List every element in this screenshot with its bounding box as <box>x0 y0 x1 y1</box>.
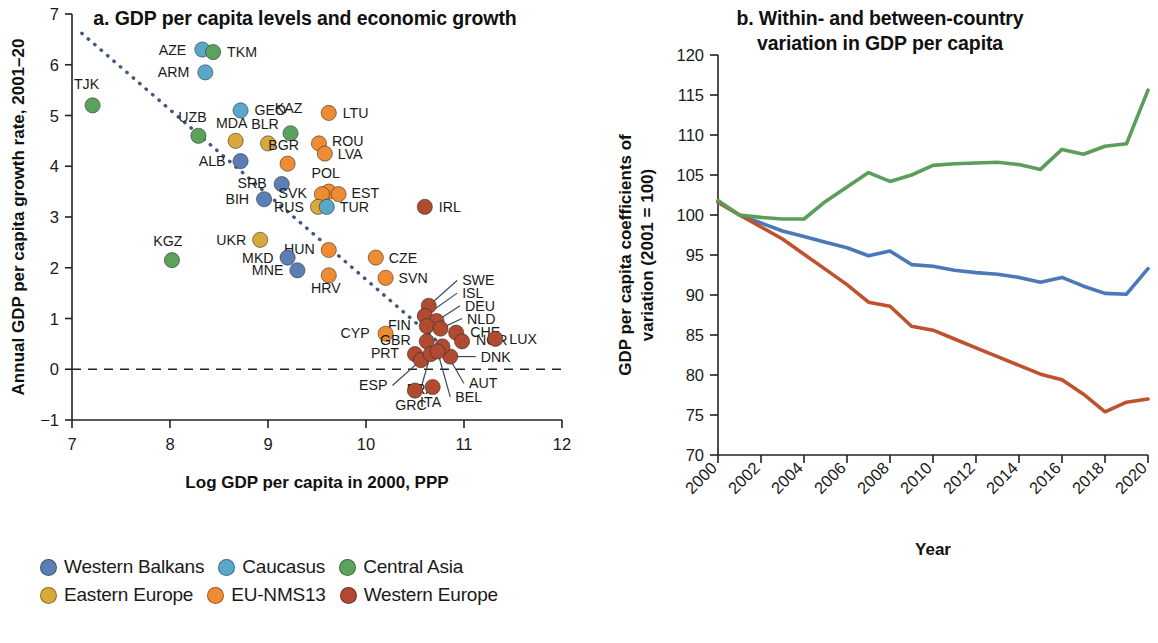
y-tick-label: 85 <box>686 326 704 344</box>
legend-row-1: Western Balkans Caucasus Central Asia <box>40 556 580 578</box>
scatter-dot[interactable] <box>319 199 334 214</box>
scatter-point-label: KGZ <box>153 233 182 249</box>
scatter-point-label: BGR <box>268 137 299 153</box>
x-tick-label: 2020 <box>1111 458 1150 497</box>
x-tick-label: 2012 <box>939 458 978 497</box>
y-tick-label: 100 <box>676 206 704 224</box>
scatter-point-ukr[interactable]: UKR <box>216 232 268 248</box>
scatter-dot[interactable] <box>317 146 332 161</box>
legend-swatch-icon <box>339 559 356 576</box>
scatter-point-label: SRB <box>238 175 267 191</box>
scatter-dot[interactable] <box>198 65 213 80</box>
scatter-point-label: TUR <box>340 199 369 215</box>
x-tick-label: 2006 <box>810 458 849 497</box>
y-tick-label: 80 <box>686 366 704 384</box>
scatter-point-label: CZE <box>389 250 417 266</box>
x-tick-label: 7 <box>67 435 76 453</box>
scatter-dot[interactable] <box>206 44 221 59</box>
scatter-point-lva[interactable]: LVA <box>317 146 363 162</box>
x-tick-label: 2000 <box>681 458 720 497</box>
scatter-point-kaz[interactable]: KAZ <box>275 100 303 141</box>
legend-item-eu-nms13: EU-NMS13 <box>207 584 325 606</box>
scatter-dot[interactable] <box>321 242 336 257</box>
scatter-point-label: HRV <box>311 280 341 296</box>
scatter-point-tur[interactable]: TUR <box>319 199 369 215</box>
scatter-point-cze[interactable]: CZE <box>368 250 417 266</box>
scatter-point-label: SVN <box>399 270 428 286</box>
x-tick-label: 2010 <box>896 458 935 497</box>
scatter-dot[interactable] <box>228 133 243 148</box>
scatter-point-arm[interactable]: ARM <box>158 64 213 80</box>
scatter-dot[interactable] <box>368 250 383 265</box>
scatter-point-alb[interactable]: ALB <box>199 153 248 169</box>
x-tick-label: 2002 <box>724 458 763 497</box>
scatter-point-mda[interactable]: MDA <box>216 115 248 149</box>
scatter-dot[interactable] <box>191 128 206 143</box>
legend-item-caucasus: Caucasus <box>218 556 325 578</box>
scatter-point-label: UKR <box>216 232 246 248</box>
legend-label: EU-NMS13 <box>231 584 325 606</box>
panel-b-lines: b. Within- and between-country variation… <box>600 0 1158 643</box>
y-axis-title-line2: variation (2001 = 100) <box>638 169 657 341</box>
scatter-dot[interactable] <box>425 379 440 394</box>
scatter-point-bgr[interactable]: BGR <box>268 137 299 172</box>
scatter-dot[interactable] <box>321 105 336 120</box>
scatter-point-irl[interactable]: IRL <box>417 199 461 215</box>
scatter-dot[interactable] <box>454 334 469 349</box>
scatter-point-label: CYP <box>340 325 369 341</box>
scatter-dot[interactable] <box>417 199 432 214</box>
scatter-dot[interactable] <box>378 270 393 285</box>
x-tick-label: 2016 <box>1025 458 1064 497</box>
y-axis-title: Annual GDP per capita growth rate, 2001–… <box>9 39 28 396</box>
scatter-dot[interactable] <box>280 156 295 171</box>
legend-row-2: Eastern Europe EU-NMS13 Western Europe <box>40 584 580 606</box>
y-tick-label: 5 <box>50 107 59 125</box>
legend-label: Western Europe <box>364 584 498 606</box>
scatter-point-aze[interactable]: AZE <box>159 42 210 58</box>
scatter-point-fin[interactable]: FIN <box>388 317 434 334</box>
y-tick-label: 90 <box>686 286 704 304</box>
scatter-dot[interactable] <box>430 344 445 359</box>
scatter-dot[interactable] <box>433 321 448 336</box>
scatter-dot[interactable] <box>256 192 271 207</box>
scatter-point-label: LTU <box>343 105 369 121</box>
scatter-point-label: ARM <box>158 64 190 80</box>
scatter-point-label: KAZ <box>275 100 303 116</box>
scatter-point-label: MDA <box>216 115 248 131</box>
y-tick-label: 1 <box>50 310 59 328</box>
legend-label: Central Asia <box>363 556 463 578</box>
scatter-point-ltu[interactable]: LTU <box>321 105 368 121</box>
scatter-dot[interactable] <box>85 98 100 113</box>
scatter-point-dnk[interactable]: DNK <box>443 349 512 365</box>
scatter-point-hrv[interactable]: HRV <box>311 268 341 297</box>
scatter-point-label: MNE <box>252 262 284 278</box>
x-tick-label: 2008 <box>853 458 892 497</box>
x-tick-label: 2004 <box>767 458 806 497</box>
y-tick-label: 2 <box>50 259 59 277</box>
x-axis-title: Log GDP per capita in 2000, PPP <box>185 473 448 492</box>
scatter-dot[interactable] <box>488 331 503 346</box>
scatter-point-rus[interactable]: RUS <box>274 199 326 215</box>
scatter-point-label: PRT <box>371 345 399 361</box>
scatter-dot[interactable] <box>253 232 268 247</box>
y-tick-label: 70 <box>686 446 704 464</box>
scatter-point-svn[interactable]: SVN <box>378 270 428 286</box>
scatter-dot[interactable] <box>419 319 434 334</box>
scatter-point-bih[interactable]: BIH <box>225 191 271 207</box>
legend-swatch-icon <box>40 559 57 576</box>
x-tick-label: 10 <box>357 435 375 453</box>
scatter-point-uzb[interactable]: UZB <box>178 109 206 144</box>
x-tick-label: 2014 <box>982 458 1021 497</box>
scatter-point-mne[interactable]: MNE <box>252 262 305 278</box>
scatter-dot[interactable] <box>233 154 248 169</box>
y-tick-label: 0 <box>50 360 59 378</box>
y-tick-label: 110 <box>678 126 704 144</box>
scatter-point-tjk[interactable]: TJK <box>74 76 100 113</box>
panel-b-title-line1: b. Within- and between-country <box>660 6 1100 31</box>
scatter-point-kgz[interactable]: KGZ <box>153 233 182 268</box>
scatter-point-tkm[interactable]: TKM <box>206 44 258 60</box>
scatter-point-lux[interactable]: LUX <box>488 331 538 347</box>
scatter-dot[interactable] <box>164 253 179 268</box>
scatter-dot[interactable] <box>290 263 305 278</box>
y-tick-label: 75 <box>686 406 704 424</box>
